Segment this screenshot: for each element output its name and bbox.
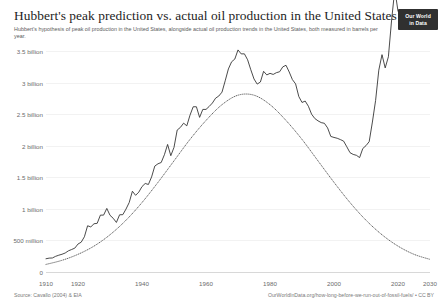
series-lines — [0, 46, 444, 278]
license-note[interactable]: OurWorldInData.org/how-long-before-we-ru… — [268, 292, 434, 298]
chart-header: Hubbert's peak prediction vs. actual oil… — [14, 8, 434, 40]
chart-footer: Source: Cavallo (2004) & EIA OurWorldInD… — [0, 292, 444, 304]
chart-card: Hubbert's peak prediction vs. actual oil… — [0, 0, 444, 308]
logo-line-2: in Data — [409, 20, 427, 26]
x-axis-tick-label: 2030 — [423, 280, 437, 287]
page-title: Hubbert's peak prediction vs. actual oil… — [14, 8, 434, 23]
plot-area: 0500 million1 billion1.5 billion2 billio… — [0, 46, 444, 278]
x-axis-tick-label: 1910 — [39, 280, 53, 287]
x-axis-tick-label: 1980 — [263, 280, 277, 287]
x-axis-tick-label: 1960 — [199, 280, 213, 287]
x-axis-tick-label: 1920 — [71, 280, 85, 287]
our-world-in-data-logo[interactable]: Our World in Data — [398, 9, 438, 30]
source-note: Source: Cavallo (2004) & EIA — [14, 292, 82, 298]
x-axis-tick-label: 2020 — [391, 280, 405, 287]
x-axis-tick-label: 1940 — [135, 280, 149, 287]
x-axis-tick-label: 2000 — [327, 280, 341, 287]
chart-subtitle: Hubbert's hypothesis of peak oil product… — [14, 26, 388, 40]
